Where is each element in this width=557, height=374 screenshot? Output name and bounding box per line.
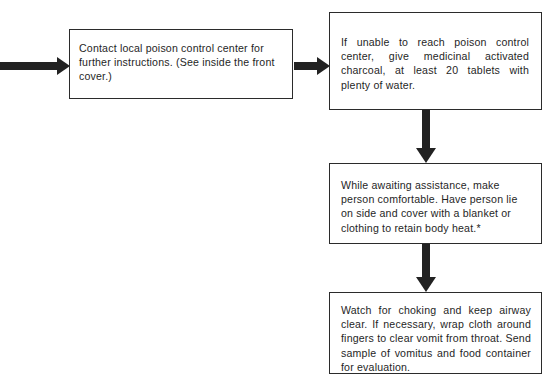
flow-box-text: Watch for choking and keep airway clear.…	[341, 303, 531, 374]
arrow-head-icon	[416, 148, 436, 163]
arrow-await-to-watch	[416, 244, 436, 292]
flow-box-contact-poison-control: Contact local poison control center for …	[69, 29, 293, 99]
arrow-shaft	[294, 62, 318, 70]
flow-box-text: Contact local poison control center for …	[79, 41, 284, 84]
arrow-charcoal-to-await	[416, 110, 436, 163]
arrow-head-icon	[416, 277, 436, 292]
arrow-shaft	[422, 244, 430, 279]
flow-box-text: While awaiting assistance, make person c…	[341, 178, 531, 235]
arrow-into-contact-box	[0, 57, 70, 75]
flow-box-watch-choking: Watch for choking and keep airway clear.…	[329, 292, 542, 374]
flow-box-text: If unable to reach poison control center…	[341, 35, 529, 92]
arrow-contact-to-charcoal	[294, 57, 330, 75]
flow-box-await-assistance: While awaiting assistance, make person c…	[329, 163, 542, 244]
arrow-shaft	[422, 110, 430, 150]
flow-box-activated-charcoal: If unable to reach poison control center…	[329, 12, 542, 110]
arrow-shaft	[0, 62, 58, 70]
